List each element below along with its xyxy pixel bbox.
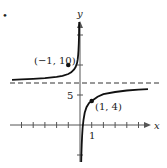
point-label-1-4: (1, 4) (95, 101, 122, 112)
x-axis: x 1 (10, 120, 160, 141)
x-tick-label-1: 1 (89, 130, 95, 141)
y-tick-label-5: 5 (67, 90, 73, 101)
y-axis: y 5 (67, 8, 83, 162)
y-axis-label: y (76, 8, 83, 19)
x-axis-arrow-icon (144, 122, 151, 128)
bullet-mark: • (2, 10, 8, 21)
point-label-neg1-10: (−1, 10) (34, 55, 76, 66)
x-axis-label: x (154, 120, 160, 131)
rational-function-graph: • x 1 y 5 (0, 0, 167, 168)
point-1-4 (89, 99, 94, 104)
curve-left-branch (12, 22, 79, 80)
